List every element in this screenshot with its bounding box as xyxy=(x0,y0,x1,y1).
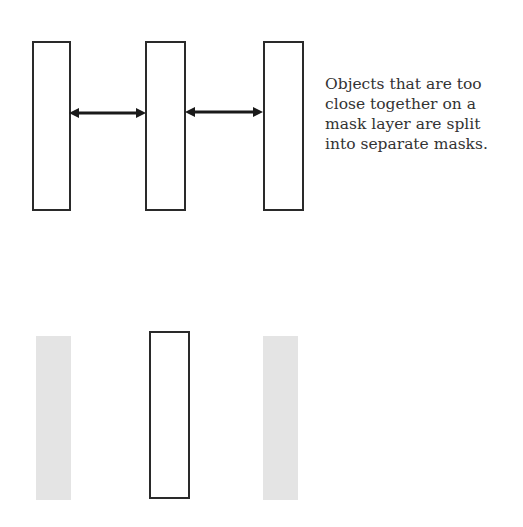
double-arrow-left-icon xyxy=(69,107,146,119)
caption-line-3: mask layer are split xyxy=(325,114,523,134)
caption-line-2: close together on a xyxy=(325,94,523,114)
top-middle-rectangle xyxy=(145,41,186,211)
figure-caption: Objects that are too close together on a… xyxy=(325,74,523,154)
bottom-right-gray-mask xyxy=(263,336,298,500)
caption-line-4: into separate masks. xyxy=(325,134,523,154)
caption-line-1: Objects that are too xyxy=(325,74,523,94)
bottom-middle-rectangle xyxy=(149,331,190,499)
bottom-left-gray-mask xyxy=(36,336,71,500)
top-left-rectangle xyxy=(32,41,71,211)
top-right-rectangle xyxy=(263,41,304,211)
double-arrow-right-icon xyxy=(185,106,263,118)
